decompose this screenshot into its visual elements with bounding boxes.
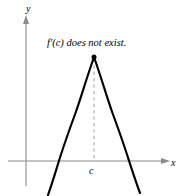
figure-cusp-derivative-does-not-exist: y x c f′(c) does not exist. xyxy=(0,0,181,196)
curve-right-branch xyxy=(94,57,140,193)
x-axis-label: x xyxy=(171,158,175,168)
x-tick-label-c: c xyxy=(89,166,93,176)
x-axis-arrowhead-icon xyxy=(161,158,170,164)
y-axis-label: y xyxy=(26,4,30,14)
annotation-f-prime-of-c: f′(c) does not exist. xyxy=(47,37,126,48)
y-axis-arrowhead-icon xyxy=(23,15,29,24)
curve-left-branch xyxy=(48,57,94,195)
annotation-derivative-does-not-exist: f′(c) does not exist. xyxy=(47,38,126,49)
cusp-point-dot xyxy=(92,55,97,60)
